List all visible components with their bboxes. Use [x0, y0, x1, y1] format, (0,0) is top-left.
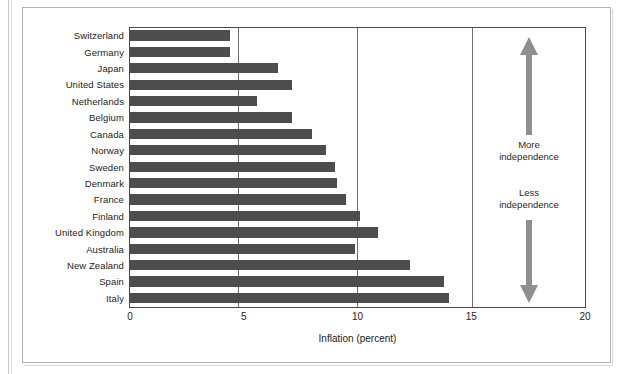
bar-italy — [130, 293, 449, 303]
bar-finland — [130, 211, 360, 221]
less-independence-line2: independence — [472, 199, 586, 211]
bar-united-kingdom — [130, 227, 378, 237]
category-label-sweden: Sweden — [0, 162, 124, 173]
bar-denmark — [130, 178, 337, 188]
arrow-up-icon — [518, 35, 540, 135]
x-tick-label-10: 10 — [352, 311, 363, 322]
bar-netherlands — [130, 96, 257, 106]
less-independence-label: Less independence — [472, 187, 586, 211]
x-axis-title: Inflation (percent) — [129, 333, 586, 344]
category-label-new-zealand: New Zealand — [0, 260, 124, 271]
category-label-germany: Germany — [0, 47, 124, 58]
category-label-united-kingdom: United Kingdom — [0, 227, 124, 238]
independence-annotation: More independence Less independence — [472, 27, 586, 308]
bar-norway — [130, 145, 326, 155]
x-tick-label-20: 20 — [579, 311, 590, 322]
category-label-netherlands: Netherlands — [0, 96, 124, 107]
less-independence-line1: Less — [472, 187, 586, 199]
more-independence-label: More independence — [472, 139, 586, 163]
x-tick-label-0: 0 — [127, 311, 133, 322]
category-label-japan: Japan — [0, 63, 124, 74]
category-label-united-states: United States — [0, 79, 124, 90]
category-label-canada: Canada — [0, 129, 124, 140]
x-tick-label-15: 15 — [466, 311, 477, 322]
bar-canada — [130, 129, 312, 139]
bar-australia — [130, 244, 355, 254]
bar-france — [130, 194, 346, 204]
bar-belgium — [130, 112, 292, 122]
category-label-norway: Norway — [0, 145, 124, 156]
category-label-switzerland: Switzerland — [0, 30, 124, 41]
category-label-france: France — [0, 194, 124, 205]
more-independence-line2: independence — [472, 151, 586, 163]
category-label-finland: Finland — [0, 211, 124, 222]
category-axis-labels: SwitzerlandGermanyJapanUnited StatesNeth… — [0, 28, 124, 307]
category-label-spain: Spain — [0, 276, 124, 287]
bar-sweden — [130, 162, 335, 172]
bar-japan — [130, 63, 278, 73]
bar-germany — [130, 47, 230, 57]
category-label-australia: Australia — [0, 244, 124, 255]
bar-united-states — [130, 80, 292, 90]
more-independence-line1: More — [472, 139, 586, 151]
bar-new-zealand — [130, 260, 410, 270]
x-tick-label-5: 5 — [241, 311, 247, 322]
category-label-belgium: Belgium — [0, 112, 124, 123]
arrow-down-icon — [518, 220, 540, 305]
bar-switzerland — [130, 30, 230, 40]
category-label-denmark: Denmark — [0, 178, 124, 189]
bar-spain — [130, 276, 444, 286]
category-label-italy: Italy — [0, 293, 124, 304]
